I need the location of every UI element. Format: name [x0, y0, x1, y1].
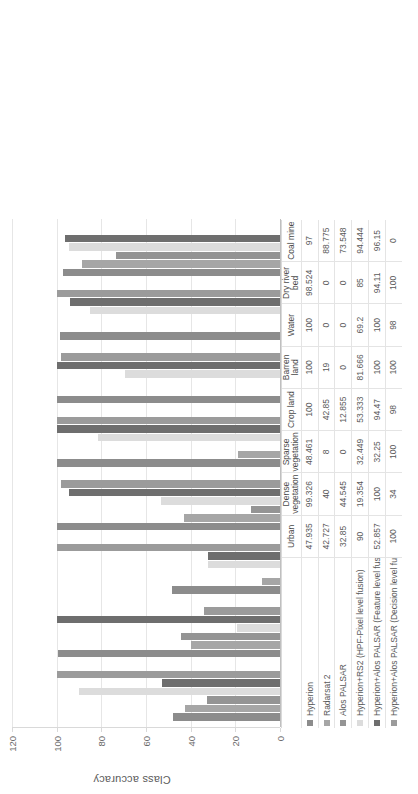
bar — [184, 514, 280, 521]
table-value-cell: 69.2 — [352, 304, 368, 346]
legend-swatch-icon — [307, 720, 313, 726]
bar-group — [12, 606, 280, 657]
table-row: Hyperion+RS2 (HPF-Pixel level fusion)901… — [352, 220, 369, 728]
table-value-cell: 47.935 — [302, 515, 318, 557]
bar — [57, 616, 280, 623]
y-axis-tick-mark — [101, 728, 102, 732]
table-header-row: UrbanDense vegetationSparse vegetationCr… — [282, 220, 302, 728]
y-axis-tick-mark — [235, 728, 236, 732]
plot-area — [12, 219, 280, 728]
table-value-cell: 42.727 — [319, 515, 335, 557]
y-axis-tick-mark — [146, 728, 147, 732]
table-row: Alos PALSAR32.8544.545012.85500073.548 — [335, 220, 352, 728]
table-value-cell: 32.25 — [369, 430, 385, 472]
table-value-cell: 8 — [319, 430, 335, 472]
table-value-cell: 100 — [302, 388, 318, 430]
legend-item-label: Radarsat 2 — [322, 674, 332, 716]
table-value-cell: 85 — [352, 261, 368, 303]
bar — [57, 396, 280, 403]
bar — [173, 713, 280, 720]
bar — [69, 489, 280, 496]
bar — [57, 459, 280, 466]
table-row: Hyperion+Alos PALSAR (Feature level fusi… — [369, 220, 386, 728]
table-value-cell: 19.354 — [352, 473, 368, 515]
table-value-cell: 98 — [386, 388, 402, 430]
legend-item[interactable]: Hyperion+Alos PALSAR (Decision level fus… — [386, 557, 402, 728]
table-value-cell: 0 — [335, 430, 351, 472]
table-value-cell: 99.326 — [302, 473, 318, 515]
bar — [90, 307, 280, 314]
legend-swatch-icon — [324, 720, 330, 726]
table-value-cell: 94.11 — [369, 261, 385, 303]
table-value-cell: 73.548 — [335, 220, 351, 261]
category-header-cell: Coal mine — [282, 220, 301, 261]
table-value-cell: 98 — [386, 304, 402, 346]
table-value-cell: 52.857 — [369, 515, 385, 557]
legend-item-label: Hyperion — [305, 682, 315, 716]
table-row: Hyperion47.93599.32648.46110010010098.52… — [302, 220, 319, 728]
y-axis-tick-mark — [57, 728, 58, 732]
bar — [185, 705, 280, 712]
y-axis-title: Class accuracy — [52, 774, 212, 786]
bar — [161, 497, 280, 504]
table-value-cell: 32.85 — [335, 515, 351, 557]
table-value-cell: 0 — [386, 220, 402, 261]
bar — [162, 679, 280, 686]
legend-item[interactable]: Hyperion+RS2 (HPF-Pixel level fusion) — [352, 557, 368, 728]
table-value-cell: 32.449 — [352, 430, 368, 472]
y-axis-tick-label: 100 — [51, 736, 62, 766]
table-value-cell: 100 — [302, 304, 318, 346]
legend-item[interactable]: Alos PALSAR — [335, 557, 351, 728]
bar-group — [12, 543, 280, 594]
y-axis-tick-label: 80 — [96, 736, 107, 766]
bar — [79, 688, 280, 695]
bar — [57, 362, 280, 369]
bar — [204, 607, 280, 614]
table-value-cell: 100 — [369, 473, 385, 515]
table-value-cell: 100 — [369, 304, 385, 346]
bar — [57, 290, 280, 297]
bar — [57, 671, 280, 678]
y-axis-tick-label: 120 — [7, 736, 18, 766]
bar — [172, 586, 280, 593]
table-value-cell: 100 — [386, 430, 402, 472]
legend-item[interactable]: Hyperion+Alos PALSAR (Feature level fusi… — [369, 557, 385, 728]
y-axis-tick-label: 20 — [230, 736, 241, 766]
table-value-cell: 53.333 — [352, 388, 368, 430]
y-axis-tick-mark — [191, 728, 192, 732]
table-value-cell: 100 — [386, 261, 402, 303]
bar — [98, 434, 280, 441]
bar — [65, 235, 280, 242]
legend-item[interactable]: Radarsat 2 — [319, 557, 335, 728]
table-corner-cell — [282, 557, 301, 728]
bar — [57, 417, 280, 424]
bar-group — [12, 670, 280, 721]
bar — [57, 523, 280, 530]
bar — [238, 451, 280, 458]
bar — [82, 260, 280, 267]
table-value-cell: 40 — [319, 473, 335, 515]
table-value-cell: 94.47 — [369, 388, 385, 430]
legend-item-label: Hyperion+Alos PALSAR (Decision level fus… — [389, 557, 399, 716]
table-value-cell: 100 — [302, 346, 318, 388]
bar — [181, 633, 280, 640]
bar — [63, 269, 280, 276]
category-header-cell: Urban — [282, 515, 301, 557]
table-value-cell: 12.855 — [335, 388, 351, 430]
legend-item-label: Hyperion+Alos PALSAR (Feature level fusi… — [372, 557, 382, 716]
legend-swatch-icon — [340, 720, 346, 726]
category-header-cell: Dense vegetation — [282, 473, 301, 515]
table-value-cell: 34 — [386, 473, 402, 515]
bar — [262, 578, 280, 585]
legend-item[interactable]: Hyperion — [302, 557, 318, 728]
table-value-cell: 96.15 — [369, 220, 385, 261]
rotated-figure-frame: Class accuracy 120100806040200 UrbanDens… — [0, 0, 418, 794]
bar — [191, 641, 280, 648]
table-value-cell: 44.545 — [335, 473, 351, 515]
bar — [69, 243, 280, 250]
y-axis-tick-label: 0 — [275, 736, 286, 766]
bar — [251, 506, 280, 513]
table-value-cell: 98.524 — [302, 261, 318, 303]
bar — [208, 552, 280, 559]
bar — [57, 425, 280, 432]
